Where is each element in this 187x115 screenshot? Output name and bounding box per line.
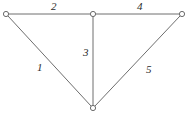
graph-vertex-bottom	[90, 105, 95, 110]
edge-label-1: 1	[37, 62, 43, 73]
graph-vertex-left	[3, 11, 8, 16]
edges-group	[8, 14, 180, 106]
graph-vertex-right	[179, 11, 184, 16]
graph-vertex-middle	[90, 11, 95, 16]
graph-edge-1	[8, 16, 91, 106]
edge-label-2: 2	[51, 1, 57, 12]
vertices-group	[3, 11, 184, 110]
edge-label-4: 4	[137, 1, 143, 12]
edge-label-5: 5	[146, 64, 152, 75]
graph-diagram: 12345	[0, 0, 187, 115]
graph-edge-5	[95, 16, 180, 106]
graph-canvas	[0, 0, 187, 115]
edge-label-3: 3	[83, 47, 89, 58]
